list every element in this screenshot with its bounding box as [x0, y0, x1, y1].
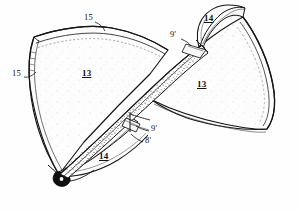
reference-numeral-9-prime-upper: 9' [170, 30, 176, 39]
patent-figure: 15 15 13 13 14 14 9' 9' 8' [0, 0, 299, 212]
reference-numeral-8-prime: 8' [145, 136, 151, 145]
figure-drawing [0, 0, 299, 212]
reference-numeral-9-prime-lower: 9' [151, 124, 157, 133]
reference-numeral-15-top: 15 [84, 13, 93, 22]
reference-numeral-13-left: 13 [82, 69, 91, 78]
junction-seam-band [40, 30, 230, 190]
reference-numeral-14-top: 14 [204, 14, 213, 23]
reference-numeral-15-left: 15 [12, 69, 21, 78]
reference-numeral-14-bottom: 14 [99, 152, 108, 161]
reference-numeral-13-right: 13 [197, 80, 206, 89]
